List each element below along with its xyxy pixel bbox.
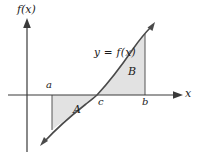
figure-canvas [0,0,198,158]
x-axis-label: x [185,88,191,99]
point-b-label: b [142,97,148,107]
x-axis-arrowhead [173,91,183,99]
point-a-label: a [46,80,52,90]
region-b-label: B [128,66,136,77]
curve-equation-label: y = f(x) [94,47,136,58]
y-axis-label: f(x) [17,4,36,15]
y-axis-arrowhead [23,18,31,28]
point-c-label: c [98,97,104,107]
region-a-label: A [73,104,81,115]
math-figure-signed-area: f(x) x y = f(x) a c b A B [0,0,198,158]
